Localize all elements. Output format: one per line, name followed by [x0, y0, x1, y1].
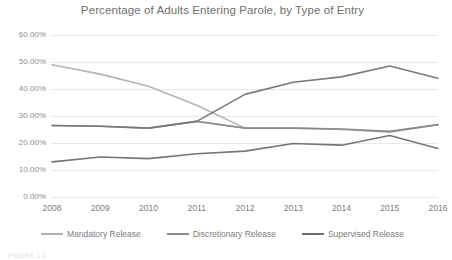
y-axis-tick-label: 10.00% — [2, 165, 46, 174]
series-line — [52, 65, 438, 133]
gridlines — [52, 35, 438, 197]
y-axis-tick-label: 30.00% — [2, 111, 46, 120]
legend-label: Mandatory Release — [67, 229, 141, 239]
legend-item[interactable]: Mandatory Release — [41, 229, 141, 239]
x-axis-tick-label: 2008 — [32, 203, 72, 213]
x-axis-tick-label: 2015 — [370, 203, 410, 213]
x-axis-tick-label: 2010 — [129, 203, 169, 213]
figure-caption: FIGURE 1.1 — [8, 252, 46, 260]
x-axis-tick-label: 2016 — [418, 203, 452, 213]
x-axis-tick-label: 2012 — [225, 203, 265, 213]
series-lines — [52, 65, 438, 162]
legend-item[interactable]: Supervised Release — [302, 229, 404, 239]
legend-swatch-icon — [167, 233, 189, 235]
legend-label: Discretionary Release — [193, 229, 276, 239]
x-axis-tick-label: 2009 — [80, 203, 120, 213]
x-axis-tick-label: 2011 — [177, 203, 217, 213]
series-line — [52, 135, 438, 161]
y-axis-tick-label: 20.00% — [2, 138, 46, 147]
legend-swatch-icon — [302, 233, 324, 235]
y-axis-tick-label: 60.00% — [2, 30, 46, 39]
legend-label: Supervised Release — [328, 229, 404, 239]
series-line — [52, 66, 438, 128]
y-axis-tick-label: 0.00% — [2, 192, 46, 201]
x-axis-tick-label: 2014 — [322, 203, 362, 213]
legend-swatch-icon — [41, 233, 63, 235]
legend-item[interactable]: Discretionary Release — [167, 229, 276, 239]
y-axis-tick-label: 50.00% — [2, 57, 46, 66]
x-axis-tick-label: 2013 — [273, 203, 313, 213]
chart-legend: Mandatory ReleaseDiscretionary ReleaseSu… — [0, 229, 445, 239]
y-axis-tick-label: 40.00% — [2, 84, 46, 93]
